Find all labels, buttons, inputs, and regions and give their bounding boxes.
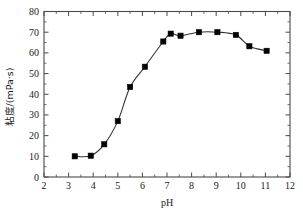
y-axis-title: 粘度/(mPa·s) <box>4 68 15 127</box>
x-tick-label: 12 <box>285 180 295 191</box>
y-axis-tick-labels: 01020304050607080 <box>29 6 39 183</box>
y-tick-label: 20 <box>29 130 39 141</box>
x-tick-label: 2 <box>42 180 47 191</box>
y-tick-label: 70 <box>29 27 39 38</box>
data-point-marker: pH 6.1, 53.3 mPa·s <box>142 64 147 69</box>
data-point-marker: pH 7.15, 69.3 mPa·s <box>168 31 173 36</box>
y-tick-label: 80 <box>29 6 39 17</box>
data-point-marker: pH 10.35, 63.2 mPa·s <box>247 44 252 49</box>
x-tick-label: 5 <box>115 180 120 191</box>
y-tick-label: 0 <box>34 172 39 183</box>
x-tick-label: 10 <box>236 180 246 191</box>
x-tick-label: 3 <box>66 180 71 191</box>
data-point-marker: pH 11.05, 61 mPa·s <box>264 48 269 53</box>
y-tick-label: 30 <box>29 109 39 120</box>
data-point-marker: pH 3.25, 10 mPa·s <box>72 154 77 159</box>
x-tick-label: 9 <box>214 180 219 191</box>
y-tick-label: 10 <box>29 151 39 162</box>
x-tick-label: 8 <box>189 180 194 191</box>
data-point-marker: pH 3.9, 10.3 mPa·s <box>88 153 93 158</box>
x-tick-label: 4 <box>91 180 96 191</box>
x-axis-title: pH <box>161 197 173 208</box>
data-point-marker: pH 9.05, 70 mPa·s <box>215 30 220 35</box>
y-tick-label: 60 <box>29 47 39 58</box>
x-tick-label: 6 <box>140 180 145 191</box>
data-point-marker: pH 8.3, 70 mPa·s <box>196 30 201 35</box>
data-point-marker: pH 5.5, 43.5 mPa·s <box>128 84 133 89</box>
data-point-marker: pH 6.85, 65.5 mPa·s <box>161 39 166 44</box>
viscosity-vs-ph-line-chart: 23456789101112 01020304050607080 pH 3.25… <box>0 0 303 214</box>
y-tick-label: 50 <box>29 68 39 79</box>
x-tick-label: 7 <box>165 180 170 191</box>
x-tick-label: 11 <box>261 180 271 191</box>
data-point-marker: pH 5, 27 mPa·s <box>115 119 120 124</box>
data-point-marker: pH 7.55, 68.3 mPa·s <box>178 33 183 38</box>
chart-figure: 23456789101112 01020304050607080 pH 3.25… <box>0 0 303 214</box>
y-tick-label: 40 <box>29 89 39 100</box>
data-point-marker: pH 9.8, 68.7 mPa·s <box>233 32 238 37</box>
data-point-marker: pH 4.45, 15.8 mPa·s <box>102 142 107 147</box>
